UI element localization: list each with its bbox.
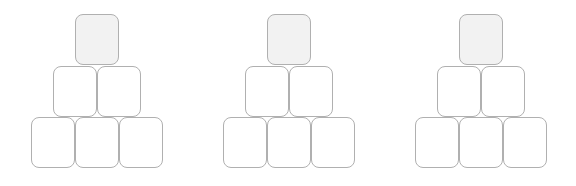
- pyramid-1-bottom-row: [31, 117, 163, 168]
- pyramid-3-middle-row: [415, 66, 547, 117]
- block-empty[interactable]: [245, 66, 289, 117]
- block-empty[interactable]: [119, 117, 163, 168]
- block-empty[interactable]: [459, 117, 503, 168]
- block-empty[interactable]: [75, 117, 119, 168]
- block-empty[interactable]: [267, 117, 311, 168]
- block-empty[interactable]: [415, 117, 459, 168]
- block-empty[interactable]: [31, 117, 75, 168]
- pyramid-1-top-row: [31, 14, 163, 65]
- block-empty[interactable]: [311, 117, 355, 168]
- block-empty[interactable]: [223, 117, 267, 168]
- pyramid-1-middle-row: [31, 66, 163, 117]
- block-filled[interactable]: [267, 14, 311, 65]
- pyramid-3: [415, 0, 547, 186]
- block-empty[interactable]: [53, 66, 97, 117]
- pyramid-canvas: [0, 0, 576, 186]
- pyramid-2-middle-row: [223, 66, 355, 117]
- block-empty[interactable]: [481, 66, 525, 117]
- block-empty[interactable]: [437, 66, 481, 117]
- pyramid-2: [223, 0, 355, 186]
- pyramid-3-bottom-row: [415, 117, 547, 168]
- pyramid-2-bottom-row: [223, 117, 355, 168]
- block-filled[interactable]: [75, 14, 119, 65]
- block-empty[interactable]: [503, 117, 547, 168]
- pyramid-1: [31, 0, 163, 186]
- pyramid-3-top-row: [415, 14, 547, 65]
- block-empty[interactable]: [289, 66, 333, 117]
- block-empty[interactable]: [97, 66, 141, 117]
- block-filled[interactable]: [459, 14, 503, 65]
- pyramid-2-top-row: [223, 14, 355, 65]
